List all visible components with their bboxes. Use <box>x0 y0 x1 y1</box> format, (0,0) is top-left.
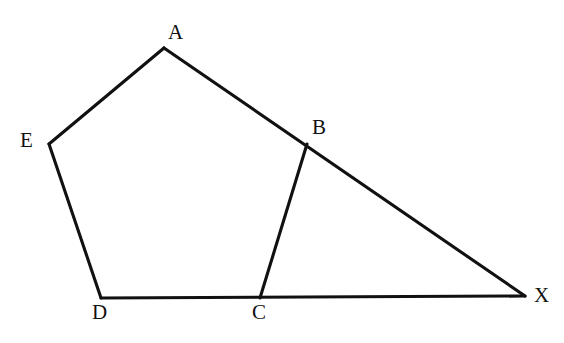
vertex-label-B: B <box>312 117 326 138</box>
vertex-label-D: D <box>92 302 107 323</box>
vertex-label-A: A <box>168 22 183 43</box>
vertex-label-C: C <box>252 302 266 323</box>
geometry-figure: A B C D E X <box>0 0 564 343</box>
line-D-to-X <box>101 296 525 298</box>
vertex-label-E: E <box>20 130 33 151</box>
line-A-to-X <box>164 48 525 296</box>
figure-canvas <box>0 0 564 343</box>
edge-E-A-visible <box>49 48 164 144</box>
vertex-label-X: X <box>534 285 549 306</box>
segment-B-to-C <box>260 144 307 298</box>
edge-E-D-visible <box>49 144 101 298</box>
